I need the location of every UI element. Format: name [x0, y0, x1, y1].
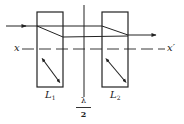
axis-label-x: x	[14, 43, 20, 53]
extraordinary-split-beam	[37, 26, 63, 37]
plate-l1	[37, 12, 63, 87]
optic-axis-arrow-l1	[44, 61, 58, 80]
plate-label-l1-sub: 1	[52, 94, 56, 101]
optic-axis-arrow-l2	[108, 61, 124, 80]
optical-diagram	[0, 0, 184, 124]
fraction-bar	[76, 107, 91, 108]
plate-label-l2-main: L	[110, 89, 117, 100]
halfwave-label-numerator: λ	[76, 97, 91, 106]
recombine-beam	[102, 26, 128, 35]
extraordinary-beam	[63, 36, 128, 37]
axis-label-x-prime: x′	[167, 43, 175, 53]
plate-label-l2: L2	[110, 90, 120, 101]
plate-l2	[102, 12, 128, 87]
halfwave-label-denominator: 2	[76, 110, 91, 118]
plate-label-l2-sub: 2	[117, 94, 121, 101]
halfwave-label: λ 2	[76, 97, 91, 118]
plate-label-l1-main: L	[45, 89, 52, 100]
plate-label-l1: L1	[45, 90, 55, 101]
